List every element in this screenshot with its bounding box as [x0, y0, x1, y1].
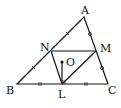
- label-o: O: [66, 56, 75, 69]
- label-m: M: [100, 42, 111, 55]
- label-c: C: [108, 84, 116, 97]
- point-o: [60, 60, 63, 63]
- geometry-diagram: A B C N M L O: [0, 0, 121, 108]
- label-b: B: [6, 84, 14, 97]
- segment-nl: [51, 51, 62, 84]
- label-l: L: [58, 88, 66, 101]
- label-n: N: [40, 41, 50, 54]
- label-a: A: [80, 4, 90, 17]
